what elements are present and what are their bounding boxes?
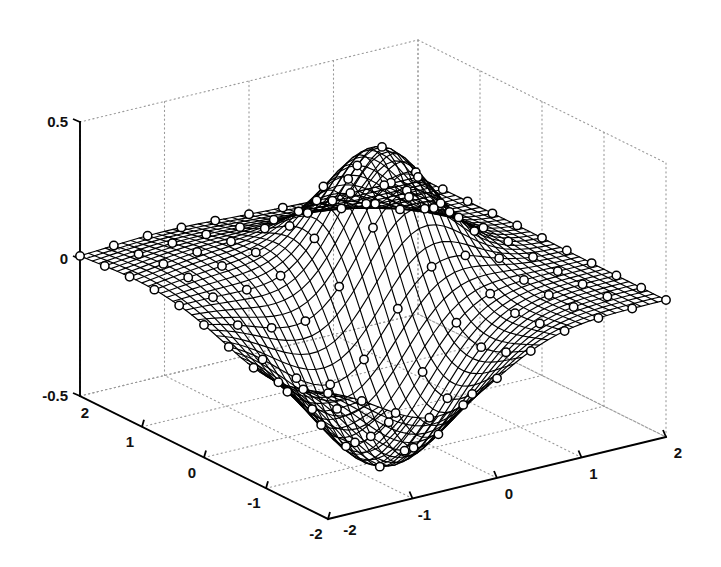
data-point-marker: [376, 462, 384, 470]
data-point-marker: [459, 401, 467, 409]
data-point-marker: [234, 321, 242, 329]
data-point-marker: [385, 418, 393, 426]
data-point-marker: [292, 374, 300, 382]
data-point-marker: [439, 185, 447, 193]
data-point-marker: [279, 203, 287, 211]
data-point-marker: [461, 251, 469, 259]
data-point-marker: [252, 248, 260, 256]
data-point-marker: [637, 284, 645, 292]
data-point-marker: [594, 314, 602, 322]
data-point-marker: [134, 250, 142, 258]
data-point-marker: [274, 378, 282, 386]
data-point-marker: [391, 409, 399, 417]
data-point-marker: [371, 199, 379, 207]
data-point-marker: [159, 260, 167, 268]
data-point-marker: [324, 389, 332, 397]
data-point-marker: [603, 292, 611, 300]
data-point-marker: [342, 442, 350, 450]
data-point-marker: [326, 380, 334, 388]
data-point-marker: [245, 210, 253, 218]
surface-plot-canvas: 0.50-0.5210-1-2-2-1012: [0, 0, 721, 567]
data-point-marker: [175, 301, 183, 309]
data-point-marker: [394, 305, 402, 313]
y-tick-mark: [142, 420, 144, 427]
y-tick-label: 1: [126, 433, 134, 450]
x-tick-mark: [410, 492, 413, 499]
data-point-marker: [560, 327, 568, 335]
data-point-marker: [267, 324, 275, 332]
data-point-marker: [312, 196, 320, 204]
data-point-marker: [400, 446, 408, 454]
data-point-marker: [193, 248, 201, 256]
y-tick-label: 0: [188, 464, 196, 481]
mesh-row: [303, 288, 641, 451]
data-point-marker: [427, 263, 435, 271]
data-point-marker: [333, 405, 341, 413]
data-point-marker: [310, 234, 318, 242]
x-tick-mark: [494, 471, 497, 478]
data-point-marker: [409, 444, 417, 452]
figure-root: 0.50-0.5210-1-2-2-1012: [0, 0, 721, 567]
data-point-marker: [554, 267, 562, 275]
data-point-marker: [294, 207, 302, 215]
data-point-marker: [360, 355, 368, 363]
data-point-marker: [405, 193, 413, 201]
data-point-marker: [662, 296, 670, 304]
data-point-marker: [346, 189, 354, 197]
y-tick-mark: [266, 481, 268, 488]
data-point-marker: [578, 280, 586, 288]
data-point-marker: [143, 231, 151, 239]
data-point-marker: [225, 343, 233, 351]
data-point-marker: [218, 262, 226, 270]
data-point-marker: [319, 182, 327, 190]
data-point-marker: [511, 309, 519, 317]
data-point-marker: [479, 224, 487, 232]
data-point-marker: [545, 291, 553, 299]
data-point-marker: [493, 374, 501, 382]
data-point-marker: [488, 209, 496, 217]
data-point-marker: [351, 438, 359, 446]
x-tick-label: -1: [418, 506, 431, 523]
x-tick-label: 1: [589, 465, 597, 482]
data-point-marker: [430, 204, 438, 212]
z-tick-label: 0: [60, 250, 68, 267]
data-point-marker: [168, 239, 176, 247]
data-point-marker: [150, 285, 158, 293]
data-point-marker: [243, 286, 251, 294]
z-tick-mark: [73, 119, 80, 122]
data-point-marker: [299, 385, 307, 393]
data-point-marker: [301, 317, 309, 325]
data-point-marker: [445, 208, 453, 216]
data-point-marker: [536, 319, 544, 327]
y-tick-mark: [204, 451, 206, 458]
data-point-marker: [513, 221, 521, 229]
data-point-marker: [236, 223, 244, 231]
data-point-marker: [434, 430, 442, 438]
data-point-marker: [317, 421, 325, 429]
data-point-marker: [529, 253, 537, 261]
data-point-marker: [200, 321, 208, 329]
mesh-col: [173, 229, 421, 464]
mesh-col: [376, 187, 624, 311]
z-tick-mark: [73, 393, 80, 396]
data-point-marker: [261, 224, 269, 232]
data-point-marker: [328, 197, 336, 205]
data-point-marker: [425, 414, 433, 422]
data-point-marker: [362, 200, 370, 208]
mesh-row: [322, 297, 660, 426]
data-point-marker: [369, 224, 377, 232]
data-point-marker: [367, 432, 375, 440]
data-point-marker: [276, 272, 284, 280]
data-point-marker: [418, 368, 426, 376]
data-point-marker: [463, 197, 471, 205]
data-point-marker: [414, 173, 422, 181]
data-point-marker: [335, 282, 343, 290]
data-point-marker: [344, 175, 352, 183]
data-point-marker: [358, 397, 366, 405]
data-point-marker: [527, 347, 535, 355]
x-tick-mark: [579, 451, 582, 458]
data-point-marker: [270, 215, 278, 223]
x-tick-label: -2: [343, 521, 356, 538]
data-point-marker: [258, 355, 266, 363]
z-tick-label: 0.5: [47, 113, 68, 130]
